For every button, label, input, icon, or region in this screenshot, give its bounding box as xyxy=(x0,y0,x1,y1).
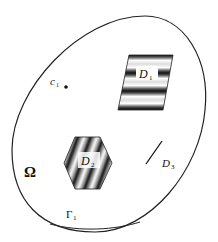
c1-label: c xyxy=(50,75,55,87)
region-d3: D 3 xyxy=(146,141,175,171)
region-d2: D 2 xyxy=(64,137,112,189)
d3-label: D xyxy=(161,157,170,169)
svg-text:1: 1 xyxy=(73,214,77,222)
svg-text:2: 2 xyxy=(91,161,95,169)
omega-label: Ω xyxy=(24,164,36,180)
gamma1-label: Γ 1 xyxy=(66,208,77,222)
domain-diagram: D 1 D 2 D 3 c 1 Ω Γ 1 xyxy=(0,0,218,242)
svg-text:1: 1 xyxy=(56,82,59,88)
d1-label: D xyxy=(138,67,148,81)
svg-text:3: 3 xyxy=(171,163,175,171)
region-d1: D 1 xyxy=(118,55,173,110)
point-c1: c 1 xyxy=(50,75,68,89)
svg-text:1: 1 xyxy=(149,74,153,82)
d2-label: D xyxy=(80,154,90,168)
svg-text:Γ: Γ xyxy=(66,208,72,220)
boundary-curve xyxy=(12,16,206,232)
